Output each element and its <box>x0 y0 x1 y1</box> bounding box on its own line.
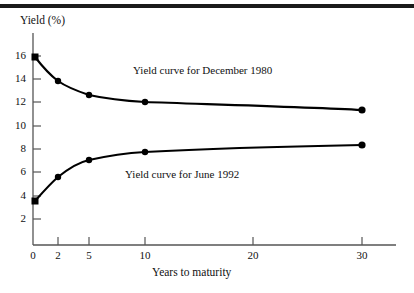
y-tick-label-4: 4 <box>4 189 26 201</box>
yield-curve-figure: Yield (%) Years to maturity Yield curve … <box>0 0 414 293</box>
x-tick-label-10: 10 <box>133 249 157 261</box>
y-tick-label-12: 12 <box>4 95 26 107</box>
y-tick-label-6: 6 <box>4 165 26 177</box>
y-tick-label-16: 16 <box>4 49 26 61</box>
x-tick-label-20: 20 <box>241 249 265 261</box>
x-axis-title: Years to maturity <box>152 266 231 278</box>
curve-label-june-1992: Yield curve for June 1992 <box>125 168 239 180</box>
x-axis-ticks <box>58 237 362 245</box>
y-axis-title: Yield (%) <box>20 14 65 26</box>
x-tick-label-5: 5 <box>77 249 101 261</box>
curve-label-december-1980: Yield curve for December 1980 <box>133 64 272 76</box>
x-tick-label-30: 30 <box>350 249 374 261</box>
y-tick-label-14: 14 <box>4 72 26 84</box>
x-tick-label-0: 0 <box>21 249 45 261</box>
y-tick-label-8: 8 <box>4 142 26 154</box>
y-tick-label-2: 2 <box>4 212 26 224</box>
y-tick-label-10: 10 <box>4 119 26 131</box>
x-tick-label-2: 2 <box>46 249 70 261</box>
